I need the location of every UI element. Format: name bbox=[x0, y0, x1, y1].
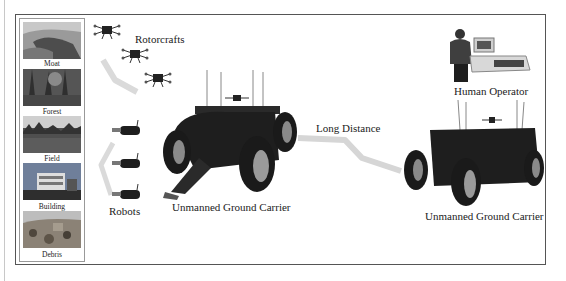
drone-icon bbox=[94, 25, 121, 40]
human-operator-label: Human Operator bbox=[454, 85, 528, 97]
ugc-left-vehicle bbox=[155, 70, 305, 200]
human-operator-station bbox=[448, 28, 548, 83]
long-distance-band bbox=[298, 138, 401, 171]
ugc-right-vehicle bbox=[400, 100, 550, 212]
mounted-drone-icon bbox=[225, 95, 249, 101]
ugc-left-label: Unmanned Ground Carrier bbox=[172, 201, 291, 213]
ground-robots bbox=[110, 120, 146, 205]
ugc-right-label: Unmanned Ground Carrier bbox=[425, 210, 544, 222]
robots-label: Robots bbox=[109, 205, 140, 217]
mounted-drone-icon bbox=[482, 117, 502, 123]
operator-head bbox=[455, 29, 465, 39]
robot-icon bbox=[112, 184, 140, 199]
long-distance-label: Long Distance bbox=[316, 122, 380, 134]
drone-icon bbox=[122, 49, 149, 64]
operator-body bbox=[450, 39, 472, 64]
robot-icon bbox=[112, 120, 140, 135]
robot-icon bbox=[112, 153, 140, 168]
rotorcrafts-label: Rotorcrafts bbox=[135, 33, 184, 45]
